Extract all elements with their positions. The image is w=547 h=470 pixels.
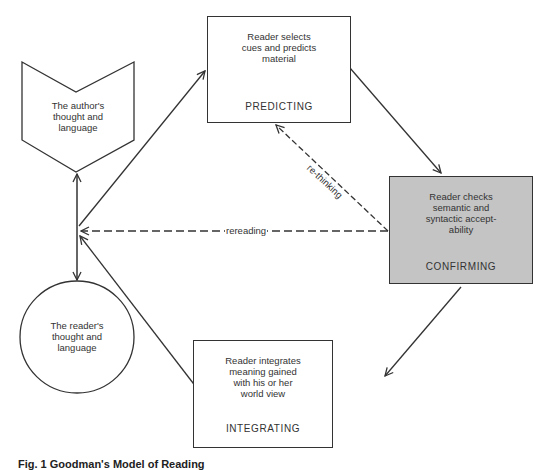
- confirming-stage-label: CONFIRMING: [390, 261, 532, 272]
- reader-node-label: The reader's thought and language: [20, 320, 134, 353]
- predicting-node: Reader selects cues and predicts materia…: [207, 16, 351, 123]
- rereading-label: rereading: [225, 225, 267, 236]
- predicting-stage-label: PREDICTING: [208, 101, 350, 112]
- integrating-node: Reader integrates meaning gained with hi…: [193, 340, 333, 448]
- integrating-stage-label: INTEGRATING: [194, 423, 332, 434]
- arrow-rethinking: [276, 125, 388, 231]
- arrow-predicting-to-confirming: [350, 68, 441, 173]
- integrating-description: Reader integrates meaning gained with hi…: [194, 355, 332, 399]
- arrow-confirming-to-integrating: [385, 287, 461, 376]
- figure-caption: Fig. 1 Goodman's Model of Reading: [18, 458, 205, 470]
- confirming-description: Reader checks semantic and syntactic acc…: [390, 191, 532, 235]
- predicting-description: Reader selects cues and predicts materia…: [208, 31, 350, 64]
- confirming-node: Reader checks semantic and syntactic acc…: [389, 176, 533, 284]
- author-node-label: The author's thought and language: [22, 100, 134, 133]
